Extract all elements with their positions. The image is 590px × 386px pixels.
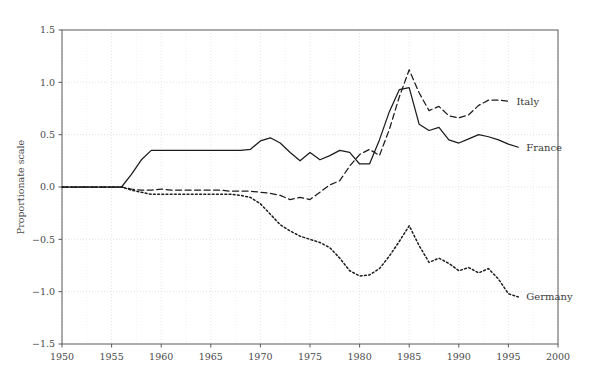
chart-figure: 1950195519601965197019751980198519901995… <box>0 0 590 386</box>
x-tick-label: 1985 <box>397 351 421 362</box>
x-tick-label: 2000 <box>546 351 570 362</box>
y-tick-label: 1.0 <box>40 77 55 88</box>
y-axis-title: Proportionate scale <box>15 139 26 234</box>
x-tick-label: 1975 <box>298 351 322 362</box>
y-tick-label: 0.0 <box>40 181 55 192</box>
line-chart: 1950195519601965197019751980198519901995… <box>0 0 590 386</box>
x-tick-label: 1995 <box>496 351 520 362</box>
x-tick-label: 1955 <box>100 351 124 362</box>
series-label-france: France <box>526 142 562 153</box>
series-line-france <box>62 88 518 187</box>
data-series-layer <box>62 70 518 297</box>
series-label-italy: Italy <box>516 96 539 107</box>
x-tick-label: 1950 <box>50 351 74 362</box>
series-labels: FranceItalyGermany <box>516 96 572 303</box>
y-tick-label: 0.5 <box>40 129 55 140</box>
y-tick-label: −1.5 <box>32 338 55 349</box>
y-tick-label: 1.5 <box>40 24 55 35</box>
gridlines <box>62 30 558 344</box>
series-line-germany <box>62 187 518 297</box>
x-tick-label: 1960 <box>149 351 173 362</box>
x-tick-label: 1980 <box>348 351 372 362</box>
series-label-germany: Germany <box>526 291 573 302</box>
y-tick-label: −1.0 <box>32 286 55 297</box>
x-tick-label: 1990 <box>447 351 471 362</box>
y-tick-label: −0.5 <box>32 234 55 245</box>
axis-titles: Proportionate scale <box>15 139 26 234</box>
axis-ticks: 1950195519601965197019751980198519901995… <box>32 24 570 362</box>
x-tick-label: 1965 <box>199 351 223 362</box>
x-tick-label: 1970 <box>248 351 272 362</box>
